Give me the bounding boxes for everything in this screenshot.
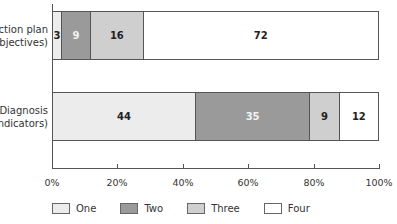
category-label-line: Diagnosis — [0, 104, 48, 117]
x-tick — [117, 164, 118, 169]
legend-item-three: Three — [187, 203, 240, 214]
bar-segment-one: 44 — [52, 92, 196, 141]
x-tick-label: 80% — [294, 177, 334, 188]
x-tick — [379, 164, 380, 169]
legend-item-four: Four — [264, 203, 310, 214]
x-tick — [248, 164, 249, 169]
bar-diagnosis: 4435912 — [52, 92, 379, 141]
category-label-line: (indicators) — [0, 117, 48, 130]
x-tick-label: 40% — [163, 177, 203, 188]
bar-segment-three: 16 — [91, 11, 143, 60]
bar-segment-four: 72 — [144, 11, 379, 60]
legend-swatch — [264, 203, 282, 214]
bar-segment-three: 9 — [310, 92, 339, 141]
x-tick — [52, 164, 53, 169]
legend-label: Two — [144, 203, 163, 214]
bar-segment-two: 9 — [62, 11, 91, 60]
x-tick — [183, 164, 184, 169]
bar-segment-two: 35 — [196, 92, 310, 141]
legend-swatch — [52, 203, 70, 214]
x-tick-label: 0% — [32, 177, 72, 188]
x-tick — [314, 164, 315, 169]
legend-label: Four — [288, 203, 310, 214]
legend-label: One — [76, 203, 96, 214]
bar-segment-four: 12 — [340, 92, 379, 141]
legend-swatch — [120, 203, 138, 214]
category-label-line: (objectives) — [0, 36, 48, 49]
legend-item-two: Two — [120, 203, 163, 214]
legend-item-one: One — [52, 203, 96, 214]
bar-action-plan: 391672 — [52, 11, 379, 60]
legend: OneTwoThreeFour — [52, 200, 334, 216]
category-label-action-plan: Action plan (objectives) — [0, 23, 48, 49]
x-axis — [52, 168, 379, 169]
x-tick-label: 60% — [228, 177, 268, 188]
x-tick-label: 20% — [97, 177, 137, 188]
legend-swatch — [187, 203, 205, 214]
x-tick-label: 100% — [359, 177, 397, 188]
category-label-line: Action plan — [0, 23, 48, 36]
category-label-diagnosis: Diagnosis (indicators) — [0, 104, 48, 130]
bar-segment-one: 3 — [52, 11, 62, 60]
legend-label: Three — [211, 203, 240, 214]
